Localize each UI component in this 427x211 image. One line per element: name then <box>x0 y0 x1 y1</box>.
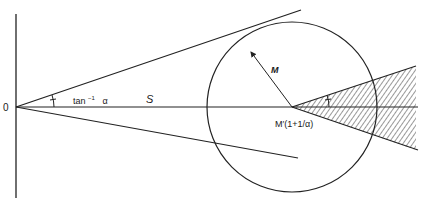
cone-upper-line <box>16 10 301 107</box>
angle-label-func: tan <box>73 96 86 106</box>
angle-arc <box>52 95 54 107</box>
angle-tick <box>50 99 56 100</box>
angle-label-sup: −1 <box>88 95 96 101</box>
angle-label: tan −1 α <box>73 92 108 106</box>
distance-label: S <box>146 93 154 105</box>
origin-label: 0 <box>3 102 9 113</box>
center-label: M′(1+1/α) <box>275 119 313 129</box>
radius-arrow <box>251 52 292 107</box>
radius-label: M <box>271 65 279 75</box>
shaded-wedge <box>292 66 416 150</box>
angle-label-var: α <box>102 96 107 106</box>
cone-circle-diagram: 0 tan −1 α S M M′(1+1/α) <box>0 0 427 211</box>
cone-lower-line <box>16 107 298 158</box>
